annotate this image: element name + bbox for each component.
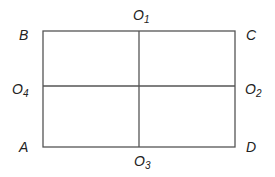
diagram-canvas: B C A D O1 O2 O3 O4 (0, 0, 275, 177)
corner-label-b: B (19, 27, 28, 43)
midpoint-label-o1: O1 (133, 7, 149, 25)
midpoint-label-o3: O3 (134, 153, 151, 171)
midpoint-label-o4: O4 (12, 81, 29, 99)
corner-label-d: D (246, 139, 256, 155)
midpoint-label-o2: O2 (245, 81, 262, 99)
corner-label-a: A (18, 139, 28, 155)
corner-label-c: C (246, 27, 257, 43)
